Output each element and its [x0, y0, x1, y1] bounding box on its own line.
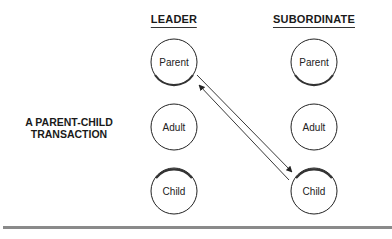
leader-parent-label: Parent [159, 57, 189, 68]
subordinate-adult-label: Adult [303, 122, 326, 133]
transaction-diagram: Parent Adult Child Parent Adult Child [0, 0, 392, 239]
subordinate-child-label: Child [303, 186, 326, 197]
bottom-divider [3, 226, 392, 229]
subordinate-adult-state: Adult [291, 104, 337, 150]
leader-child-label: Child [163, 186, 186, 197]
subordinate-child-state: Child [291, 168, 337, 214]
stimulus-arrow-icon [197, 75, 292, 172]
leader-adult-state: Adult [151, 104, 197, 150]
leader-adult-label: Adult [163, 122, 186, 133]
subordinate-parent-label: Parent [299, 57, 329, 68]
response-arrow-icon [199, 85, 289, 180]
leader-parent-state: Parent [151, 39, 197, 85]
leader-child-state: Child [151, 168, 197, 214]
subordinate-parent-state: Parent [291, 39, 337, 85]
